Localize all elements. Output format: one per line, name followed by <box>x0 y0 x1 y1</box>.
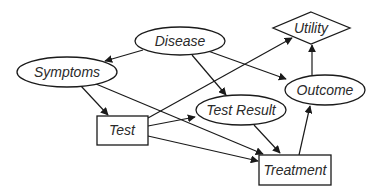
node-symptoms: Symptoms <box>17 57 117 87</box>
edge-disease-outcome <box>208 51 286 79</box>
node-test-result: Test Result <box>196 95 286 125</box>
node-utility: Utility <box>273 12 350 44</box>
disease-label: Disease <box>155 33 206 49</box>
test-result-label: Test Result <box>206 102 277 118</box>
influence-diagram: Disease Symptoms Utility Outcome Test Re… <box>0 0 369 194</box>
node-outcome: Outcome <box>285 75 365 105</box>
edge-disease-test-result <box>192 55 226 95</box>
treatment-label: Treatment <box>264 162 328 178</box>
test-label: Test <box>109 122 136 138</box>
node-treatment: Treatment <box>259 155 331 185</box>
edge-disease-symptoms <box>105 50 143 61</box>
symptoms-label: Symptoms <box>34 64 100 80</box>
node-disease: Disease <box>135 27 225 55</box>
edge-treatment-outcome <box>299 106 310 155</box>
utility-label: Utility <box>294 20 329 36</box>
edge-test-treatment <box>148 136 258 161</box>
node-test: Test <box>97 116 148 145</box>
edge-symptoms-test <box>81 86 108 115</box>
outcome-label: Outcome <box>297 82 354 98</box>
edge-test-result-treatment <box>254 125 280 153</box>
edge-test-test-result <box>148 117 195 126</box>
